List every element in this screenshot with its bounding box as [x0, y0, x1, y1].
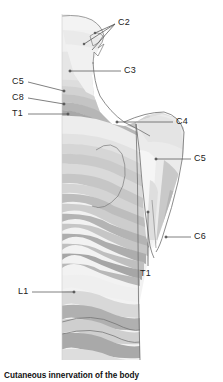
- anatomy-illustration: [0, 0, 223, 382]
- label-c3: C3: [124, 66, 136, 75]
- label-t1-arm: T1: [140, 269, 151, 278]
- label-c5-right: C5: [194, 154, 206, 163]
- label-l1: L1: [18, 287, 28, 296]
- label-c6: C6: [194, 232, 206, 241]
- label-c2: C2: [118, 18, 130, 27]
- figure-caption: Cutaneous innervation of the body: [4, 371, 139, 380]
- label-t1-left: T1: [12, 109, 23, 118]
- label-c4: C4: [176, 117, 188, 126]
- cutaneous-innervation-figure: C2 C3 C5 C8 T1 C4 C5 C6 T1 L1 Cutaneous …: [0, 0, 223, 382]
- label-c8-left: C8: [12, 93, 24, 102]
- label-c5-left: C5: [12, 77, 24, 86]
